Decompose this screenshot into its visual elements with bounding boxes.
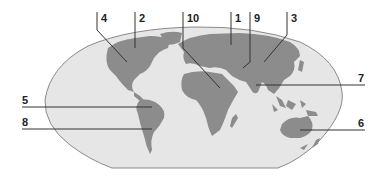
- label-1: 1: [235, 13, 241, 24]
- label-2: 2: [139, 13, 145, 24]
- label-6: 6: [358, 118, 364, 129]
- label-9: 9: [254, 13, 260, 24]
- label-4: 4: [101, 13, 107, 24]
- label-7: 7: [358, 73, 364, 84]
- world-map: [0, 0, 385, 179]
- label-10: 10: [187, 13, 199, 24]
- label-8: 8: [22, 117, 28, 128]
- label-3: 3: [291, 13, 297, 24]
- label-5: 5: [22, 95, 28, 106]
